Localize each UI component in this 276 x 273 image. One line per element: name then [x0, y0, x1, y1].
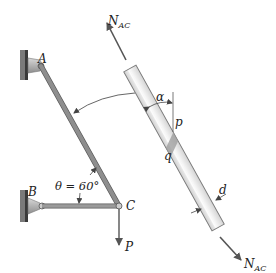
- tube-section-view: [107, 23, 241, 260]
- label-theta: θ = 60°: [55, 179, 99, 193]
- detail-callout-arrow-icon: [74, 93, 135, 113]
- force-bottom-arrow-icon: [220, 237, 241, 260]
- label-c: C: [126, 199, 135, 213]
- label-b: B: [27, 185, 37, 199]
- wall-a-face: [25, 50, 28, 80]
- label-diameter: d: [219, 183, 227, 197]
- label-alpha: α: [156, 90, 164, 104]
- label-p-point: p: [175, 115, 183, 129]
- diameter-arrow-left-icon: [191, 209, 201, 213]
- label-force-bottom: NAC: [243, 257, 266, 273]
- theta-pointer-ac-icon: [90, 168, 96, 175]
- theta-pointer-bc-icon: [79, 193, 80, 203]
- label-a: A: [37, 52, 47, 66]
- pin-c-icon: [116, 203, 122, 209]
- truss-diagram: A B C P θ = 60° NAC NAC α p q d: [0, 0, 276, 273]
- label-force-top: NAC: [107, 14, 130, 30]
- label-p-load: P: [124, 240, 134, 254]
- label-q-point: q: [164, 149, 172, 163]
